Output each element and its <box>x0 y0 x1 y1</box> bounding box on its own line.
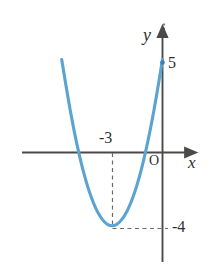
y-axis-label: y <box>143 26 151 44</box>
y-intercept-point <box>160 60 165 65</box>
parabola-figure: y x O 5 -3 -4 <box>0 0 211 276</box>
vertex-y-label: -4 <box>172 219 185 235</box>
y-intercept-label: 5 <box>168 55 176 71</box>
x-axis-label: x <box>188 154 196 171</box>
vertex-x-label: -3 <box>99 130 112 146</box>
origin-label: O <box>149 154 159 168</box>
